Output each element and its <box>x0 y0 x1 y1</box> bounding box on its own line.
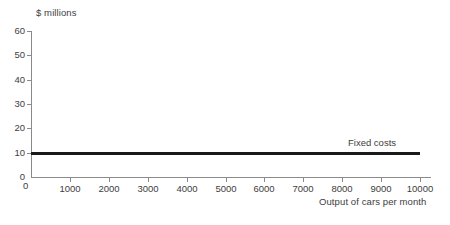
x-axis-tick-label: 3000 <box>128 183 168 194</box>
y-axis-tick-label: 50 <box>5 49 25 60</box>
fixed-costs-annotation: Fixed costs <box>348 137 396 148</box>
x-axis-tick-label: 7000 <box>283 183 323 194</box>
x-axis-title: Output of cars per month <box>319 196 426 207</box>
y-axis-tick-label: 60 <box>5 25 25 36</box>
x-axis-tick <box>148 178 149 182</box>
x-axis-tick <box>70 178 71 182</box>
fixed-costs-chart: $ millions Output of cars per month 0102… <box>0 0 450 225</box>
y-axis-tick <box>27 31 31 32</box>
y-axis-title: $ millions <box>36 7 77 18</box>
x-axis-tick-label: 1000 <box>50 183 90 194</box>
x-axis-tick <box>420 178 421 182</box>
x-axis-tick-label: 9000 <box>361 183 401 194</box>
y-axis-tick <box>27 55 31 56</box>
x-axis-tick-label: 5000 <box>206 183 246 194</box>
y-axis-tick-label: 10 <box>5 147 25 158</box>
x-axis-tick-label: 2000 <box>89 183 129 194</box>
y-axis-tick-label: 0 <box>5 171 25 182</box>
x-axis-tick <box>381 178 382 182</box>
x-axis-tick-label: 8000 <box>322 183 362 194</box>
fixed-costs-line <box>31 152 420 155</box>
x-axis-tick-label: 6000 <box>244 183 284 194</box>
x-axis-tick-label: 4000 <box>167 183 207 194</box>
x-axis-line <box>31 177 431 178</box>
x-axis-tick <box>187 178 188 182</box>
x-axis-tick <box>226 178 227 182</box>
y-axis-tick-label: 40 <box>5 74 25 85</box>
y-axis-tick-label: 30 <box>5 98 25 109</box>
y-axis-tick <box>27 80 31 81</box>
y-axis-tick-label: 20 <box>5 122 25 133</box>
x-axis-tick-label: 10000 <box>400 183 440 194</box>
x-axis-tick <box>342 178 343 182</box>
x-axis-tick <box>264 178 265 182</box>
x-axis-tick <box>303 178 304 182</box>
y-axis-tick <box>27 104 31 105</box>
origin-label: 0 <box>23 180 28 191</box>
y-axis-tick <box>27 128 31 129</box>
y-axis-line <box>31 31 32 178</box>
x-axis-tick <box>109 178 110 182</box>
